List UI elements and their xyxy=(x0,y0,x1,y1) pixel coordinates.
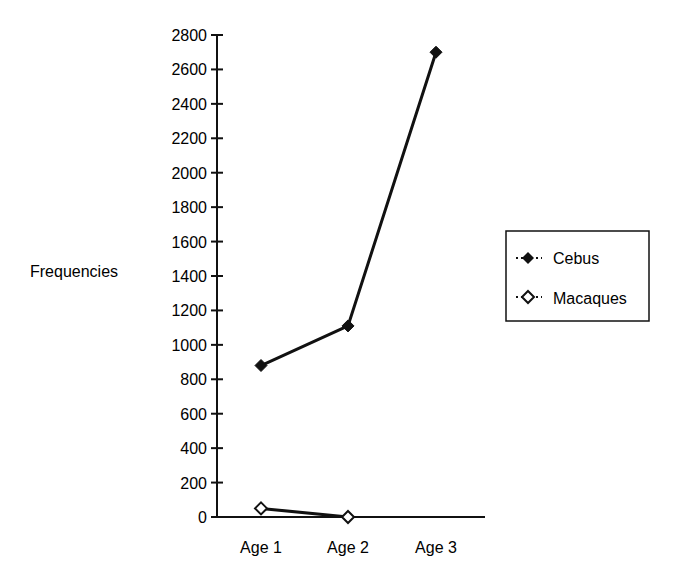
x-tick-label: Age 1 xyxy=(240,539,282,556)
y-tick-label: 1200 xyxy=(171,302,207,319)
y-tick-label: 1400 xyxy=(171,268,207,285)
open-diamond-marker xyxy=(255,502,267,514)
y-tick-label: 200 xyxy=(180,475,207,492)
y-tick-label: 1600 xyxy=(171,234,207,251)
x-tick-label: Age 3 xyxy=(415,539,457,556)
series-cebus xyxy=(255,46,442,371)
series-line xyxy=(261,508,348,517)
y-tick-label: 2200 xyxy=(171,130,207,147)
open-diamond-marker xyxy=(342,511,354,523)
legend-label-macaques: Macaques xyxy=(553,290,627,307)
series-macaques xyxy=(255,502,354,523)
y-tick-label: 1800 xyxy=(171,199,207,216)
y-tick-label: 600 xyxy=(180,406,207,423)
y-tick-label: 1000 xyxy=(171,337,207,354)
filled-diamond-marker xyxy=(430,46,442,58)
y-tick-label: 2800 xyxy=(171,27,207,44)
y-axis-title: Frequencies xyxy=(30,263,118,280)
legend-label-cebus: Cebus xyxy=(553,250,599,267)
filled-diamond-marker xyxy=(342,320,354,332)
x-tick-label: Age 2 xyxy=(327,539,369,556)
legend-box xyxy=(506,231,649,321)
y-tick-label: 0 xyxy=(198,509,207,526)
y-axis: 0200400600800100012001400160018002000220… xyxy=(171,27,223,526)
legend: Cebus Macaques xyxy=(506,231,649,321)
line-chart: 0200400600800100012001400160018002000220… xyxy=(0,0,682,587)
y-tick-label: 2400 xyxy=(171,96,207,113)
series-line xyxy=(261,52,436,365)
y-tick-label: 2000 xyxy=(171,165,207,182)
y-tick-label: 800 xyxy=(180,371,207,388)
filled-diamond-marker xyxy=(255,360,267,372)
series-layer xyxy=(255,46,442,523)
y-tick-label: 2600 xyxy=(171,61,207,78)
y-tick-label: 400 xyxy=(180,440,207,457)
